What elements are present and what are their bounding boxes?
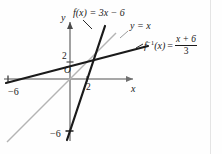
- line-y-equals-x: [7, 33, 116, 142]
- fraction-denominator: 3: [175, 47, 197, 57]
- x-axis-arrowhead: [126, 76, 133, 82]
- leader-line-f: [83, 20, 92, 29]
- coordinate-plane-svg: [0, 0, 222, 154]
- curve-label-identity: y = x: [130, 21, 151, 31]
- f-inverse-fraction: x + 6 3: [175, 35, 197, 57]
- figure-graph-inverse-function: y x O 2 2 −6 −6 f(x) = 3x − 6 y = x f−1(…: [0, 0, 222, 154]
- f-inverse-argument: (x): [154, 40, 165, 51]
- x-tick-label-neg6: −6: [8, 87, 19, 97]
- x-axis-label: x: [131, 84, 135, 94]
- curve-label-f: f(x) = 3x − 6: [73, 8, 125, 18]
- f-inverse-equals: =: [165, 40, 175, 51]
- leader-line-identity: [120, 31, 128, 38]
- y-tick-label-neg6: −6: [50, 129, 61, 139]
- x-tick-label-2: 2: [86, 83, 91, 93]
- fraction-numerator: x + 6: [175, 35, 197, 45]
- y-axis-arrowhead: [67, 22, 73, 29]
- y-tick-label-2: 2: [62, 52, 67, 62]
- curve-label-f-inverse: f−1(x)= x + 6 3: [144, 36, 197, 58]
- y-axis-label: y: [61, 13, 65, 23]
- origin-label: O: [64, 66, 71, 76]
